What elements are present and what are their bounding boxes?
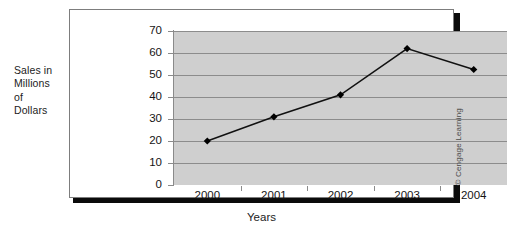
copyright-credit: © Cengage Learning [454,108,463,186]
y-tick-mark [168,163,173,164]
x-tick-label: 2000 [195,189,221,202]
x-axis-label: Years [69,211,454,223]
data-point-marker [270,113,277,120]
x-tick-label: 2004 [461,189,487,202]
y-tick-mark [168,53,173,54]
x-tick-label: 2002 [328,189,354,202]
chart-frame: 010203040506070 20002001200220032004 [69,9,454,198]
y-tick-mark [168,119,173,120]
y-tick-label: 10 [128,157,162,169]
data-point-marker [470,66,477,73]
x-tick-label: 2003 [394,189,420,202]
y-axis-label: Sales inMillionsofDollars [14,64,76,118]
y-tick-mark [168,97,173,98]
y-axis-label-line: Millions [14,77,76,90]
x-tick-mark [241,186,242,191]
y-tick-label: 30 [128,113,162,125]
y-tick-mark [168,185,173,186]
y-axis-label-line: Dollars [14,104,76,117]
x-tick-mark [440,186,441,191]
y-tick-mark [168,75,173,76]
y-tick-label: 0 [128,179,162,191]
y-tick-label: 40 [128,91,162,103]
y-axis-ticks: 010203040506070 [124,10,174,199]
y-tick-label: 20 [128,135,162,147]
y-axis-label-line: Sales in [14,64,76,77]
x-tick-label: 2001 [261,189,287,202]
y-tick-mark [168,31,173,32]
x-tick-mark [374,186,375,191]
x-tick-mark [307,186,308,191]
y-tick-label: 70 [128,25,162,37]
data-point-marker [204,137,211,144]
y-tick-label: 60 [128,47,162,59]
y-tick-label: 50 [128,69,162,81]
y-axis-label-line: of [14,91,76,104]
y-tick-mark [168,141,173,142]
